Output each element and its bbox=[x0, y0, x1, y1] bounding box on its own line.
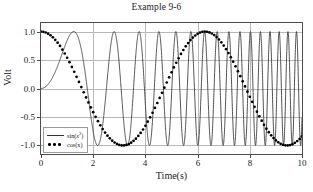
legend-item-sin: sin(x2) bbox=[47, 131, 83, 140]
x-axis-label: Time(s) bbox=[40, 170, 303, 181]
legend-dot bbox=[58, 143, 61, 146]
chart-legend: sin(x2) cos(x) bbox=[43, 127, 88, 153]
legend-label-cos: cos(x) bbox=[67, 141, 82, 148]
plot-area: sin(x2) cos(x) bbox=[40, 22, 303, 155]
x-tick-label: 10 bbox=[289, 158, 313, 168]
y-tick-mark bbox=[37, 32, 40, 33]
legend-item-cos: cos(x) bbox=[47, 140, 83, 149]
legend-dot bbox=[53, 143, 56, 146]
x-tick-label: 0 bbox=[28, 158, 54, 168]
y-tick-mark bbox=[37, 60, 40, 61]
x-tick-label: 8 bbox=[237, 158, 263, 168]
x-tick-label: 4 bbox=[132, 158, 158, 168]
y-tick-label: -1.0 bbox=[2, 140, 35, 150]
x-tick-label: 2 bbox=[80, 158, 106, 168]
y-axis-label: Volt bbox=[2, 58, 13, 98]
legend-dot bbox=[48, 143, 51, 146]
x-tick-label: 6 bbox=[185, 158, 211, 168]
y-tick-mark bbox=[37, 145, 40, 146]
y-tick-mark bbox=[37, 117, 40, 118]
y-tick-mark bbox=[37, 89, 40, 90]
legend-swatch-dotted-line bbox=[47, 140, 64, 149]
y-tick-label: -0.5 bbox=[2, 112, 35, 122]
chart-figure: Example 9-6 sin(x2) cos(x) 0246810 1.00.… bbox=[0, 0, 313, 192]
legend-swatch-solid-line bbox=[47, 131, 64, 140]
y-tick-label: 1.0 bbox=[2, 27, 35, 37]
legend-label-sin: sin(x2) bbox=[67, 131, 83, 139]
chart-title: Example 9-6 bbox=[0, 2, 313, 12]
